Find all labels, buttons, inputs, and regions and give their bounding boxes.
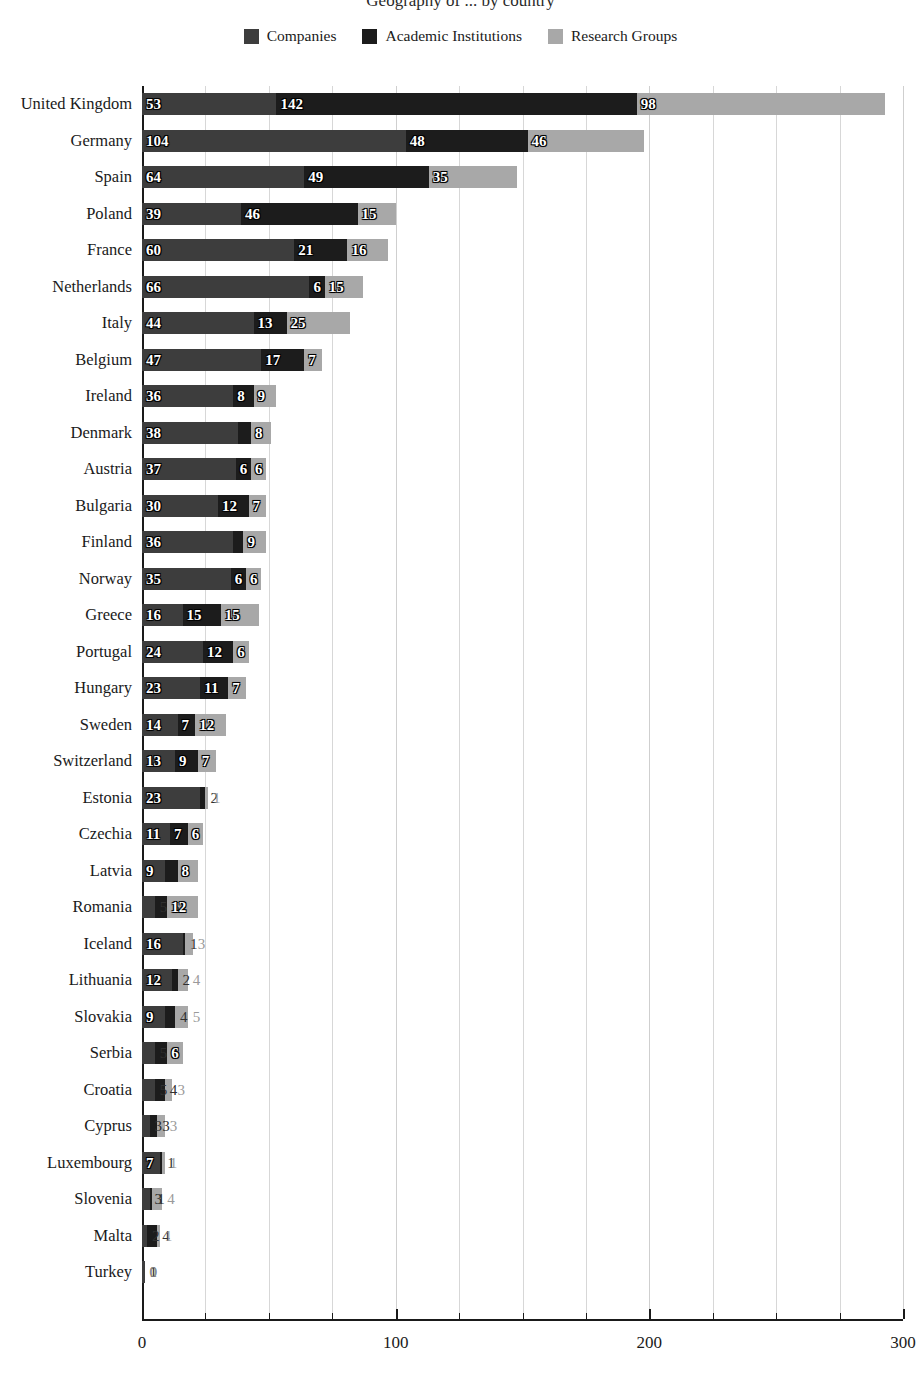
legend-item-academic-institutions[interactable]: Academic Institutions	[362, 27, 521, 45]
bar-value-label: 39	[146, 203, 161, 225]
bar-value-label: 6	[171, 1042, 179, 1064]
category-label: Denmark	[71, 415, 132, 452]
bar-row[interactable]: Turkey100	[142, 1254, 903, 1291]
bar-row[interactable]: Czechia1176	[142, 816, 903, 853]
bar-value-label: 49	[308, 166, 323, 188]
bar-row[interactable]: Germany1044846	[142, 123, 903, 160]
bar-value-label: 3	[155, 1115, 163, 1137]
bar-row[interactable]: Netherlands66615	[142, 269, 903, 306]
bar-row[interactable]: Serbia556	[142, 1035, 903, 1072]
bar-row[interactable]: Italy441325	[142, 305, 903, 342]
gridline	[903, 86, 904, 1319]
bar-row[interactable]: Portugal24126	[142, 634, 903, 671]
bar-row[interactable]: Croatia543	[142, 1072, 903, 1109]
bar-row[interactable]: Hungary23117	[142, 670, 903, 707]
category-label: Czechia	[79, 816, 132, 853]
bar-value-label: 60	[146, 239, 161, 261]
bar-row[interactable]: Lithuania1224	[142, 962, 903, 999]
category-label: Poland	[86, 196, 132, 233]
category-label: Luxembourg	[47, 1145, 132, 1182]
bar-segment-companies	[142, 1042, 155, 1064]
bar-row[interactable]: France602116	[142, 232, 903, 269]
bar-value-label: 12	[222, 495, 237, 517]
bar-value-label: 23	[146, 677, 161, 699]
bar-value-label: 5	[160, 896, 168, 918]
bar-row[interactable]: Sweden14712	[142, 707, 903, 744]
legend-item-research-groups[interactable]: Research Groups	[548, 27, 677, 45]
bar-value-label: 6	[250, 568, 258, 590]
bar-segment-research-groups	[162, 1152, 165, 1174]
bar-value-label: 36	[146, 531, 161, 553]
legend-item-label: Academic Institutions	[385, 27, 521, 45]
x-axis-minor-tick	[523, 1313, 524, 1319]
bar-row[interactable]: Estonia2321	[142, 780, 903, 817]
bar-row[interactable]: Belgium47177	[142, 342, 903, 379]
bar-segment-research-groups	[637, 93, 886, 115]
x-axis-minor-tick	[459, 1313, 460, 1319]
bar-row[interactable]: Denmark3858	[142, 415, 903, 452]
bar-segment-companies	[142, 896, 155, 918]
stacked-bar	[142, 166, 517, 188]
x-axis-minor-tick	[205, 1313, 206, 1319]
bar-row[interactable]: Slovenia314	[142, 1181, 903, 1218]
bar-row[interactable]: Finland3649	[142, 524, 903, 561]
bar-value-label: 15	[187, 604, 202, 626]
bar-value-label: 3	[170, 1115, 178, 1137]
bar-value-label: 6	[240, 458, 248, 480]
bar-segment-companies	[142, 1188, 150, 1210]
bar-value-label: 44	[146, 312, 161, 334]
bar-row[interactable]: Ireland3689	[142, 378, 903, 415]
bar-row[interactable]: Romania5512	[142, 889, 903, 926]
bar-segment-companies	[142, 130, 406, 152]
bar-value-label: 53	[146, 93, 161, 115]
bar-row[interactable]: Spain644935	[142, 159, 903, 196]
bar-row[interactable]: Bulgaria30127	[142, 488, 903, 525]
bar-value-label: 9	[146, 1006, 154, 1028]
bar-row[interactable]: Slovakia945	[142, 999, 903, 1036]
bar-value-label: 7	[146, 1152, 154, 1174]
bar-value-label: 35	[433, 166, 448, 188]
category-label: Slovenia	[74, 1181, 132, 1218]
bar-value-label: 6	[192, 823, 200, 845]
stacked-bar	[142, 312, 350, 334]
legend-item-label: Research Groups	[571, 27, 677, 45]
stacked-bar	[142, 130, 644, 152]
bar-value-label: 12	[171, 896, 186, 918]
x-axis-minor-tick	[713, 1313, 714, 1319]
bar-row[interactable]: Poland394615	[142, 196, 903, 233]
bar-row[interactable]: Latvia958	[142, 853, 903, 890]
bar-value-label: 15	[362, 203, 377, 225]
bar-value-label: 3	[177, 1079, 185, 1101]
bar-segment-companies	[142, 276, 309, 298]
bar-value-label: 8	[182, 860, 190, 882]
legend-item-companies[interactable]: Companies	[244, 27, 337, 45]
bar-value-label: 46	[532, 130, 547, 152]
bar-row[interactable]: United Kingdom5314298	[142, 86, 903, 123]
bar-value-label: 24	[146, 641, 161, 663]
bar-row[interactable]: Iceland1613	[142, 926, 903, 963]
bar-row[interactable]: Austria3766	[142, 451, 903, 488]
category-label: Hungary	[74, 670, 132, 707]
x-axis-minor-tick	[840, 1313, 841, 1319]
category-label: Lithuania	[69, 962, 132, 999]
bar-row[interactable]: Cyprus333	[142, 1108, 903, 1145]
bar-value-label: 6	[313, 276, 321, 298]
x-axis-tick-label: 100	[383, 1333, 409, 1353]
bar-row[interactable]: Malta241	[142, 1218, 903, 1255]
bar-row[interactable]: Switzerland1397	[142, 743, 903, 780]
bar-value-label: 8	[237, 385, 245, 407]
x-axis-minor-tick	[586, 1313, 587, 1319]
category-label: Slovakia	[74, 999, 132, 1036]
bar-value-label: 98	[641, 93, 656, 115]
bar-segment-research-groups	[205, 787, 208, 809]
bar-value-label: 16	[146, 933, 161, 955]
chart-title: Geography of ... by country	[0, 0, 921, 11]
category-label: France	[87, 232, 132, 269]
bar-value-label: 3	[162, 1115, 170, 1137]
bar-value-label: 7	[182, 714, 190, 736]
bar-row[interactable]: Norway3566	[142, 561, 903, 598]
bar-row[interactable]: Greece161515	[142, 597, 903, 634]
bar-row[interactable]: Luxembourg711	[142, 1145, 903, 1182]
bar-value-label: 15	[225, 604, 240, 626]
category-label: Germany	[71, 123, 132, 160]
